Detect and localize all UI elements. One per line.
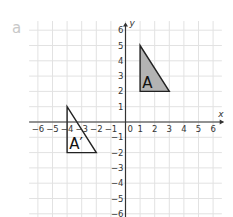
x-tick-label: 0 xyxy=(128,124,133,134)
x-tick-label: 2 xyxy=(152,124,157,134)
x-arrow-icon xyxy=(220,120,224,125)
x-tick-label: −3 xyxy=(75,124,88,134)
x-tick-label: −4 xyxy=(61,124,74,134)
y-tick-label: 6 xyxy=(118,25,123,35)
x-tick-label: 4 xyxy=(181,124,186,134)
x-tick-label: 1 xyxy=(137,124,142,134)
y-tick-label: −4 xyxy=(111,178,124,188)
y-tick-label: −2 xyxy=(111,148,124,158)
x-tick-label: 3 xyxy=(167,124,172,134)
y-tick-label: 4 xyxy=(118,56,123,66)
x-axis-label: x xyxy=(217,109,224,119)
x-tick-label: 5 xyxy=(196,124,201,134)
x-tick-label: 6 xyxy=(210,124,215,134)
y-tick-label: 3 xyxy=(118,71,123,81)
y-tick-label: −1 xyxy=(111,132,124,142)
coordinate-grid: xy−6−5−4−3−2−10123456654321−1−2−3−4−5−6A… xyxy=(0,0,233,217)
x-tick-label: −2 xyxy=(90,124,103,134)
x-tick-label: −6 xyxy=(32,124,45,134)
y-axis-label: y xyxy=(129,18,136,28)
y-tick-label: −3 xyxy=(111,163,124,173)
y-tick-label: −6 xyxy=(111,209,124,217)
y-tick-label: −5 xyxy=(111,194,124,204)
triangle-a-label: A xyxy=(142,74,153,92)
triangle-a-prime-label: A′ xyxy=(69,135,83,153)
y-tick-label: 2 xyxy=(118,86,123,96)
y-tick-label: 1 xyxy=(118,102,123,112)
y-tick-label: 5 xyxy=(118,41,123,51)
x-tick-label: −5 xyxy=(46,124,59,134)
y-arrow-icon xyxy=(123,23,128,27)
